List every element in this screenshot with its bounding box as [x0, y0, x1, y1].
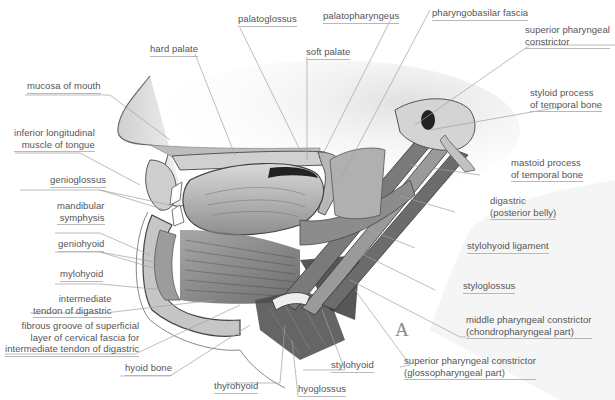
label-geniohyoid: geniohyoid — [58, 238, 104, 252]
label-line-1: middle pharyngeal constrictor — [466, 314, 592, 326]
label-line-1: styloid process — [530, 87, 602, 99]
label-intermediate-tendon: intermediate tendon of digastric — [33, 293, 112, 318]
label-fibrous-groove: fibrous groove of superficial layer of c… — [5, 320, 139, 357]
label-line-3: intermediate tendon of digastric — [5, 343, 139, 355]
label-line-2: (chondropharyngeal part) — [466, 326, 592, 338]
anatomy-figure: palatoglossus hard palate soft palate pa… — [0, 0, 615, 400]
label-line-2: of temporal bone — [511, 169, 583, 181]
label-mandibular-symphysis: mandibular symphysis — [57, 200, 105, 225]
label-superior-constrictor-glossopharyngeal: superior pharyngeal constrictor (glossop… — [404, 355, 536, 380]
plate-letter: A — [395, 319, 409, 341]
label-styloglossus: styloglossus — [463, 280, 515, 294]
label-line-2: symphysis — [57, 212, 105, 224]
label-pharyngobasilar-fascia: pharyngobasilar fascia — [432, 7, 528, 21]
label-palatopharyngeus: palatopharyngeus — [323, 10, 399, 24]
label-middle-pharyngeal-constrictor: middle pharyngeal constrictor (chondroph… — [466, 314, 592, 339]
label-line-1: inferior longitudinal — [14, 127, 95, 139]
label-line-2: tendon of digastric — [33, 305, 112, 317]
label-line-2: of temporal bone — [530, 99, 602, 111]
label-line-1: mastoid process — [511, 157, 583, 169]
label-soft-palate: soft palate — [306, 46, 350, 60]
label-inferior-longitudinal-muscle: inferior longitudinal muscle of tongue — [14, 127, 95, 152]
label-line-1: superior pharyngeal — [525, 24, 610, 36]
label-line-1: mandibular — [57, 200, 105, 212]
label-stylohyoid: stylohyoid — [331, 359, 374, 373]
label-superior-pharyngeal-constrictor: superior pharyngeal constrictor — [525, 24, 610, 49]
label-hard-palate: hard palate — [150, 43, 198, 57]
label-thyrohyoid: thyrohyoid — [214, 380, 258, 394]
label-line-2: (posterior belly) — [490, 207, 556, 219]
label-mucosa-of-mouth: mucosa of mouth — [27, 80, 101, 94]
label-line-1: superior pharyngeal constrictor — [404, 355, 536, 367]
label-line-2: muscle of tongue — [14, 139, 95, 151]
pharyngeal-wall — [330, 148, 385, 219]
label-digastric-posterior-belly: digastric (posterior belly) — [490, 195, 556, 220]
label-genioglossus: genioglossus — [50, 174, 106, 188]
label-line-2: layer of cervical fascia for — [5, 332, 139, 344]
label-line-1: fibrous groove of superficial — [5, 320, 139, 332]
label-palatoglossus: palatoglossus — [238, 13, 297, 27]
label-line-1: digastric — [490, 195, 556, 207]
label-stylohyoid-ligament: stylohyoid ligament — [467, 240, 549, 254]
label-mastoid-process: mastoid process of temporal bone — [511, 157, 583, 182]
label-line-2: constrictor — [525, 36, 610, 48]
external-auditory-meatus — [421, 110, 435, 130]
label-line-2: (glossopharyngeal part) — [404, 367, 536, 379]
lower-incisor — [172, 205, 184, 226]
label-hyoglossus: hyoglossus — [298, 383, 346, 397]
label-mylohyoid: mylohyoid — [60, 268, 103, 282]
label-line-1: intermediate — [33, 293, 112, 305]
label-hyoid-bone: hyoid bone — [125, 362, 172, 376]
label-styloid-process: styloid process of temporal bone — [530, 87, 602, 112]
